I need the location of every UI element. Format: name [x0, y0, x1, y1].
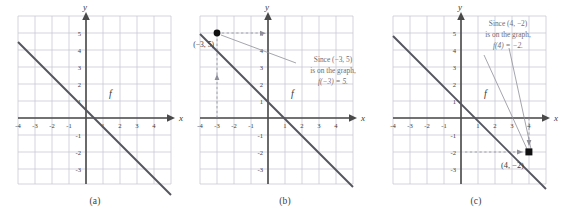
- svg-text:is on the graph,: is on the graph,: [310, 66, 356, 75]
- grid-lines-c: [393, 16, 546, 184]
- svg-text:4: 4: [152, 122, 156, 129]
- panel-a: x y -4 -3 -2 -1 1 2 3 4 5 4 3 2 1 -1 -2: [0, 0, 190, 224]
- axes-c: [393, 14, 542, 184]
- y-tick-labels-b: 5 4 3 2 1 -1 -2 -3: [258, 30, 264, 173]
- panel-caption-c: (c): [381, 196, 571, 206]
- curve-label-b: f: [291, 88, 295, 99]
- svg-text:1: 1: [283, 122, 286, 129]
- curve-label-c: f: [484, 88, 488, 99]
- svg-text:-4: -4: [390, 122, 396, 129]
- panel-c: x y -4 -3 -2 -1 1 2 3 4 5 4 3 2 1 -1 -2 …: [381, 0, 571, 224]
- svg-text:5: 5: [453, 30, 457, 37]
- annotation-b: Since (−3, 5) is on the graph, f(−3) = 5…: [310, 55, 356, 86]
- svg-text:-1: -1: [66, 122, 72, 129]
- highlight-point-c: [525, 148, 532, 155]
- axes-a: [18, 14, 167, 184]
- svg-text:Since (4, −2): Since (4, −2): [489, 19, 528, 28]
- svg-text:1: 1: [260, 98, 263, 105]
- svg-text:2: 2: [78, 81, 81, 88]
- svg-text:2: 2: [493, 122, 496, 129]
- y-axis-label-b: y: [264, 2, 269, 12]
- svg-text:-2: -2: [258, 149, 264, 156]
- guide-lines-b: [217, 33, 260, 118]
- figure-function-evaluation: x y -4 -3 -2 -1 1 2 3 4 5 4 3 2 1 -1 -2: [0, 0, 571, 224]
- y-axis-label-a: y: [82, 2, 87, 12]
- svg-text:-3: -3: [214, 122, 220, 129]
- panel-b: x y -4 -3 -2 -1 1 2 3 4 5 4 3 2 1 -1 -2 …: [190, 0, 380, 224]
- svg-text:-3: -3: [32, 122, 38, 129]
- svg-text:-3: -3: [451, 166, 457, 173]
- svg-text:3: 3: [453, 64, 457, 71]
- svg-text:3: 3: [317, 122, 321, 129]
- svg-text:2: 2: [453, 81, 456, 88]
- graph-a: x y -4 -3 -2 -1 1 2 3 4 5 4 3 2 1 -1 -2: [0, 0, 190, 200]
- svg-text:-1: -1: [76, 132, 82, 139]
- y-axis-label-c: y: [457, 2, 462, 12]
- svg-text:-2: -2: [451, 149, 457, 156]
- svg-text:-1: -1: [248, 122, 254, 129]
- guide-arrow-right-b: [260, 31, 266, 36]
- svg-text:-1: -1: [258, 132, 264, 139]
- svg-text:4: 4: [453, 47, 457, 54]
- svg-text:-2: -2: [231, 122, 237, 129]
- guide-arrow-up-b: [215, 74, 220, 80]
- point-label-b: (−3, 5): [193, 40, 214, 49]
- grid-lines-a: [18, 16, 171, 184]
- svg-text:4: 4: [78, 47, 82, 54]
- svg-text:2: 2: [300, 122, 303, 129]
- curve-label-a: f: [109, 88, 113, 99]
- svg-text:3: 3: [510, 122, 514, 129]
- svg-text:5: 5: [78, 30, 82, 37]
- point-label-c: (4, −2): [501, 161, 524, 170]
- grid-lines-b: [200, 16, 353, 184]
- axes-b: [200, 14, 349, 184]
- svg-text:-4: -4: [197, 122, 203, 129]
- guide-arrow-right-c: [517, 150, 523, 155]
- svg-text:4: 4: [334, 122, 338, 129]
- highlight-point-b: [214, 30, 221, 37]
- x-axis-label-b: x: [360, 113, 365, 123]
- svg-text:2: 2: [118, 122, 121, 129]
- graph-c: x y -4 -3 -2 -1 1 2 3 4 5 4 3 2 1 -1 -2 …: [381, 0, 571, 200]
- svg-text:f(−3) = 5.: f(−3) = 5.: [318, 77, 348, 86]
- annotation-c: Since (4, −2) is on the graph, f(4) = −2…: [485, 19, 531, 50]
- svg-text:2: 2: [260, 81, 263, 88]
- svg-text:Since (−3, 5): Since (−3, 5): [314, 55, 353, 64]
- svg-text:-1: -1: [441, 122, 447, 129]
- svg-text:-1: -1: [451, 132, 457, 139]
- svg-text:-3: -3: [258, 166, 264, 173]
- svg-text:3: 3: [135, 122, 139, 129]
- svg-text:f(4) = −2.: f(4) = −2.: [493, 41, 523, 50]
- panel-caption-b: (b): [190, 196, 380, 206]
- svg-text:-3: -3: [76, 166, 82, 173]
- svg-text:-2: -2: [424, 122, 430, 129]
- svg-text:3: 3: [78, 64, 82, 71]
- svg-text:-2: -2: [49, 122, 55, 129]
- svg-text:3: 3: [260, 64, 264, 71]
- y-tick-labels-c: 5 4 3 2 1 -1 -2 -3: [451, 30, 457, 173]
- x-axis-label-a: x: [178, 113, 183, 123]
- panel-caption-a: (a): [0, 196, 190, 206]
- svg-text:-2: -2: [76, 149, 82, 156]
- svg-text:-3: -3: [407, 122, 413, 129]
- svg-text:is on the graph,: is on the graph,: [485, 30, 531, 39]
- x-axis-label-c: x: [553, 113, 558, 123]
- graph-b: x y -4 -3 -2 -1 1 2 3 4 5 4 3 2 1 -1 -2 …: [190, 0, 380, 200]
- svg-text:-4: -4: [15, 122, 21, 129]
